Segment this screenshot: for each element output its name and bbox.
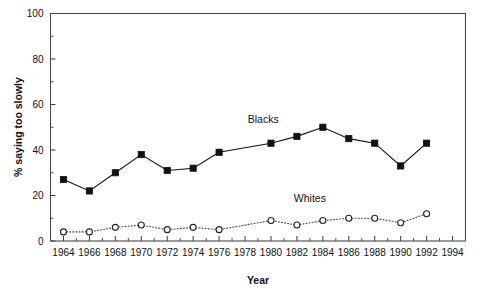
data-point-whites-1980: [268, 218, 274, 224]
chart-figure: 020406080100 196419661968197019721974197…: [0, 0, 480, 289]
data-point-blacks-1964: [60, 176, 66, 182]
x-tick-label-1968: 1968: [104, 247, 127, 258]
x-axis-title: Year: [247, 274, 269, 286]
data-point-blacks-1970: [138, 151, 144, 157]
data-point-blacks-1984: [320, 124, 326, 130]
y-tick-label-60: 60: [32, 99, 44, 110]
x-tick-label-1982: 1982: [286, 247, 309, 258]
x-tick-label-1988: 1988: [364, 247, 387, 258]
data-point-whites-1982: [294, 222, 300, 228]
x-tick-label-1992: 1992: [415, 247, 438, 258]
x-tick-label-1984: 1984: [312, 247, 335, 258]
x-tick-label-1978: 1978: [234, 247, 257, 258]
data-point-whites-1984: [320, 218, 326, 224]
data-point-whites-1964: [60, 229, 66, 235]
data-point-whites-1974: [190, 224, 196, 230]
data-point-whites-1966: [86, 229, 92, 235]
data-point-blacks-1980: [268, 140, 274, 146]
series-label-blacks: Blacks: [248, 113, 279, 125]
x-tick-label-1974: 1974: [182, 247, 205, 258]
data-point-blacks-1990: [398, 163, 404, 169]
data-point-whites-1990: [398, 220, 404, 226]
data-point-blacks-1982: [294, 133, 300, 139]
data-point-whites-1992: [424, 211, 430, 217]
y-axis-title: % saying too slowly: [12, 77, 24, 177]
x-tick-label-1964: 1964: [52, 247, 75, 258]
y-tick-label-40: 40: [32, 145, 44, 156]
series-label-whites: Whites: [294, 192, 326, 204]
y-tick-label-100: 100: [27, 8, 44, 19]
data-point-whites-1972: [164, 227, 170, 233]
data-point-blacks-1966: [86, 188, 92, 194]
data-point-whites-1988: [372, 215, 378, 221]
y-tick-label-20: 20: [32, 190, 44, 201]
x-tick-label-1970: 1970: [130, 247, 153, 258]
chart-background: [0, 0, 480, 289]
data-point-whites-1968: [112, 224, 118, 230]
data-point-whites-1986: [346, 215, 352, 221]
data-point-blacks-1988: [372, 140, 378, 146]
y-tick-label-80: 80: [32, 54, 44, 65]
data-point-blacks-1992: [423, 140, 429, 146]
x-tick-label-1980: 1980: [260, 247, 283, 258]
data-point-whites-1976: [216, 227, 222, 233]
data-point-blacks-1972: [164, 167, 170, 173]
data-point-blacks-1986: [346, 136, 352, 142]
data-point-whites-1970: [138, 222, 144, 228]
x-tick-label-1976: 1976: [208, 247, 231, 258]
x-tick-label-1966: 1966: [78, 247, 101, 258]
line-chart: 020406080100 196419661968197019721974197…: [0, 0, 480, 289]
x-tick-label-1972: 1972: [156, 247, 179, 258]
x-tick-label-1994: 1994: [441, 247, 464, 258]
data-point-blacks-1968: [112, 170, 118, 176]
x-tick-label-1986: 1986: [338, 247, 361, 258]
data-point-blacks-1974: [190, 165, 196, 171]
y-tick-label-0: 0: [38, 236, 44, 247]
x-tick-label-1990: 1990: [390, 247, 413, 258]
data-point-blacks-1976: [216, 149, 222, 155]
